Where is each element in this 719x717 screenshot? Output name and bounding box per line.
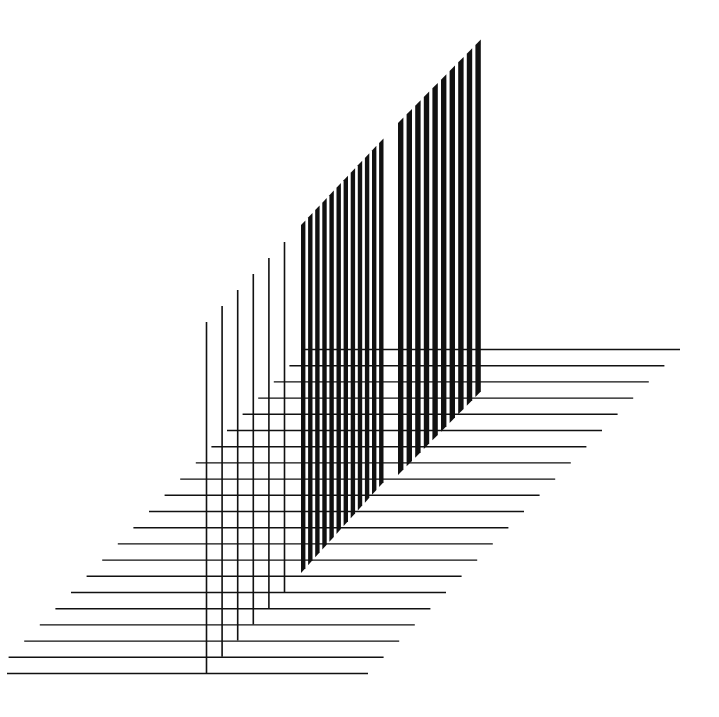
left-bar — [301, 220, 305, 573]
left-bar — [322, 198, 326, 550]
right-bar — [441, 74, 446, 431]
left-bar — [365, 153, 369, 502]
left-bar — [358, 161, 362, 511]
right-bar — [407, 109, 412, 466]
right-bar — [475, 40, 480, 397]
left-bar — [308, 213, 312, 565]
right-bar — [398, 118, 403, 475]
right-bar — [415, 100, 420, 457]
left-bar — [372, 146, 376, 495]
left-bar — [315, 205, 319, 557]
right-bar — [432, 83, 437, 440]
left-bar — [379, 138, 383, 487]
line-art-canvas — [0, 0, 719, 717]
right-bar — [450, 66, 455, 423]
right-bar — [424, 92, 429, 449]
right-bar — [458, 57, 463, 414]
right-bar — [467, 48, 472, 405]
left-bar — [351, 168, 355, 518]
left-bar — [337, 183, 341, 534]
left-bar — [344, 176, 348, 526]
left-bar — [329, 191, 333, 542]
